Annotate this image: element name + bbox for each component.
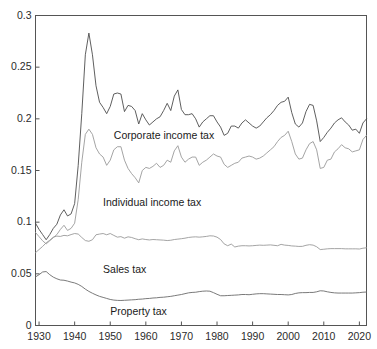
series-line-sales-tax (36, 234, 367, 253)
x-tick-label: 1970 (161, 331, 201, 342)
series-annotation-property-tax: Property tax (110, 306, 167, 317)
x-tick-label: 1930 (19, 331, 59, 342)
y-axis-ticks (36, 16, 40, 326)
x-tick-label: 2020 (339, 331, 377, 342)
series-line-individual-income-tax (36, 129, 367, 244)
y-tick-label: 0.3 (17, 10, 32, 21)
y-tick-label: 0.15 (11, 165, 31, 176)
x-tick-label: 2000 (268, 331, 308, 342)
chart-figure: 00.050.10.150.20.250.3193019401950196019… (0, 0, 377, 349)
y-tick-label: 0.25 (11, 61, 31, 72)
y-tick-label: 0.05 (11, 268, 31, 279)
x-tick-label: 1990 (233, 331, 273, 342)
y-tick-label: 0.2 (17, 113, 32, 124)
x-tick-label: 2010 (304, 331, 344, 342)
series-annotation-sales-tax: Sales tax (103, 264, 146, 275)
x-axis-ticks (39, 322, 359, 326)
x-tick-label: 1980 (197, 331, 237, 342)
chart-plot-area (0, 0, 377, 349)
series-annotation-individual-income-tax: Individual income tax (103, 197, 201, 208)
series-annotation-corporate-income-tax: Corporate income tax (114, 130, 214, 141)
x-tick-label: 1940 (55, 331, 95, 342)
y-tick-label: 0.1 (17, 216, 32, 227)
y-tick-label: 0 (26, 320, 32, 331)
series-line-property-tax (36, 272, 367, 301)
x-tick-label: 1960 (126, 331, 166, 342)
x-tick-label: 1950 (90, 331, 130, 342)
